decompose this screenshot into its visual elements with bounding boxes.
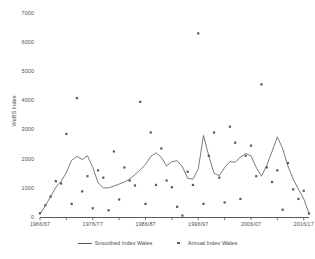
annual-index-point bbox=[134, 184, 136, 186]
annual-index-point bbox=[197, 32, 199, 34]
annual-index-point bbox=[208, 155, 210, 157]
annual-index-point bbox=[181, 214, 183, 216]
annual-index-point bbox=[139, 101, 141, 103]
annual-index-point bbox=[303, 190, 305, 192]
annual-index-point bbox=[187, 171, 189, 173]
annual-index-point bbox=[234, 142, 236, 144]
legend-label-smoothed: Smoothed Index Wales bbox=[95, 240, 153, 246]
annual-index-point bbox=[60, 182, 62, 184]
annual-index-point bbox=[271, 181, 273, 183]
annual-index-point bbox=[81, 190, 83, 192]
annual-index-point bbox=[107, 209, 109, 211]
annual-index-point bbox=[118, 198, 120, 200]
x-axis-tick-label: 2006/07 bbox=[231, 221, 271, 227]
annual-index-point bbox=[239, 198, 241, 200]
x-axis-tick-label: 1976/77 bbox=[73, 221, 113, 227]
annual-index-point bbox=[292, 188, 294, 190]
chart-legend: Smoothed Index Wales Annual Index Wales bbox=[0, 240, 315, 246]
annual-index-point bbox=[218, 177, 220, 179]
annual-index-point bbox=[160, 147, 162, 149]
annual-index-point bbox=[224, 201, 226, 203]
legend-label-annual: Annual Index Wales bbox=[188, 240, 238, 246]
annual-index-point bbox=[260, 83, 262, 85]
y-axis-tick-label: 5000 bbox=[8, 68, 34, 74]
annual-index-point bbox=[282, 209, 284, 211]
annual-index-point bbox=[150, 131, 152, 133]
annual-index-point bbox=[65, 133, 67, 135]
legend-item-smoothed-index-wales: Smoothed Index Wales bbox=[78, 240, 153, 246]
legend-item-annual-index-wales: Annual Index Wales bbox=[172, 240, 237, 246]
y-axis-title: WeBS Index bbox=[11, 81, 17, 141]
annual-index-point bbox=[229, 126, 231, 128]
annual-index-point bbox=[144, 203, 146, 205]
x-axis-tick-label: 1996/97 bbox=[178, 221, 218, 227]
annual-index-point bbox=[245, 155, 247, 157]
chart-axes bbox=[40, 218, 309, 221]
annual-index-point bbox=[297, 198, 299, 200]
annual-index-point bbox=[255, 175, 257, 177]
x-axis-tick-label: 1986/87 bbox=[126, 221, 166, 227]
legend-dot-swatch-icon bbox=[177, 242, 179, 244]
y-axis-tick-label: 2000 bbox=[8, 156, 34, 162]
annual-index-point bbox=[49, 196, 51, 198]
annual-index-point bbox=[92, 207, 94, 209]
annual-index-point bbox=[176, 206, 178, 208]
annual-index-markers bbox=[39, 32, 310, 216]
annual-index-point bbox=[71, 203, 73, 205]
chart-container: 01000200030004000500060007000 1966/67197… bbox=[0, 0, 315, 259]
y-axis-tick-label: 7000 bbox=[8, 10, 34, 16]
annual-index-point bbox=[276, 169, 278, 171]
annual-index-point bbox=[192, 184, 194, 186]
annual-index-point bbox=[266, 166, 268, 168]
annual-index-point bbox=[39, 212, 41, 214]
annual-index-point bbox=[113, 150, 115, 152]
annual-index-point bbox=[171, 186, 173, 188]
x-axis-tick-label: 2016/17 bbox=[284, 221, 315, 227]
annual-index-point bbox=[102, 177, 104, 179]
annual-index-point bbox=[123, 166, 125, 168]
y-axis-tick-label: 0 bbox=[8, 214, 34, 220]
annual-index-point bbox=[55, 180, 57, 182]
annual-index-point bbox=[129, 179, 131, 181]
annual-index-point bbox=[44, 204, 46, 206]
x-axis-tick-label: 1966/67 bbox=[20, 221, 60, 227]
y-axis-tick-label: 1000 bbox=[8, 185, 34, 191]
annual-index-point bbox=[287, 162, 289, 164]
y-axis-tick-label: 6000 bbox=[8, 39, 34, 45]
annual-index-point bbox=[165, 179, 167, 181]
annual-index-point bbox=[155, 184, 157, 186]
annual-index-point bbox=[213, 131, 215, 133]
annual-index-point bbox=[97, 169, 99, 171]
annual-index-point bbox=[308, 212, 310, 214]
annual-index-point bbox=[86, 175, 88, 177]
annual-index-point bbox=[250, 145, 252, 147]
annual-index-point bbox=[202, 203, 204, 205]
annual-index-point bbox=[76, 97, 78, 99]
smoothed-index-line bbox=[40, 135, 309, 214]
legend-line-swatch-icon bbox=[78, 243, 92, 244]
